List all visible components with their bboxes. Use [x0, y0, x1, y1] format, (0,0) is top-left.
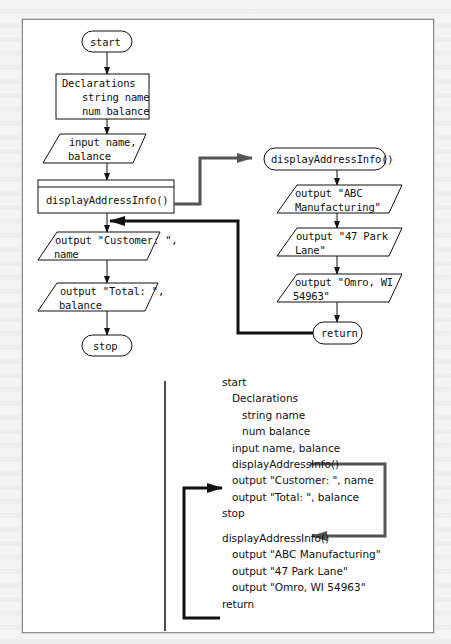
pseudocode-line: output "Omro, WI 54963" [222, 579, 366, 595]
output-park-line-1: output "47 Park [296, 229, 388, 243]
pseudocode-line: stop [222, 505, 245, 521]
pseudocode-line: output "ABC Manufacturing" [222, 546, 381, 562]
output-customer-line-2: name [54, 247, 79, 261]
output-total-line-1: output "Total: ", [60, 284, 164, 298]
pseudocode-line: displayAddressInfo() [222, 456, 339, 472]
module-call-label: displayAddressInfo() [46, 193, 168, 207]
pseudocode-line: num balance [222, 423, 310, 439]
input-label-line-2: balance [68, 149, 111, 163]
module-header-label: displayAddressInfo() [271, 152, 393, 166]
pseudocode-line: output "47 Park Lane" [222, 563, 348, 579]
output-abc-line-2: Manufacturing" [295, 200, 381, 214]
pseudocode-line: string name [222, 407, 305, 423]
pseudocode-line: output "Total: ", balance [222, 489, 359, 505]
pseudocode-return-arrow [184, 488, 222, 618]
stop-label: stop [93, 339, 118, 353]
output-park-line-2: Lane" [295, 243, 326, 257]
return-label: return [321, 326, 358, 340]
declarations-line-1: string name [82, 90, 149, 104]
pseudocode-line: input name, balance [222, 440, 340, 456]
output-customer-line-1: output "Customer: ", [55, 233, 177, 247]
start-label: start [90, 35, 121, 49]
pseudocode-line: start [222, 374, 246, 390]
output-total-line-2: balance [59, 298, 102, 312]
pseudocode-line: return [222, 596, 254, 612]
pseudocode-line: displayAddressInfo() [222, 530, 329, 546]
input-label-line-1: input name, [69, 135, 136, 149]
pseudocode-line: output "Customer: ", name [222, 472, 374, 488]
call-arrow [174, 158, 252, 204]
declarations-line-2: num balance [82, 104, 149, 118]
declarations-title: Declarations [62, 76, 135, 90]
output-abc-line-1: output "ABC [295, 186, 362, 200]
output-omro-line-2: 54963" [293, 289, 330, 303]
output-omro-line-1: output "Omro, WI [295, 275, 393, 289]
pseudocode-line: Declarations [222, 390, 298, 406]
